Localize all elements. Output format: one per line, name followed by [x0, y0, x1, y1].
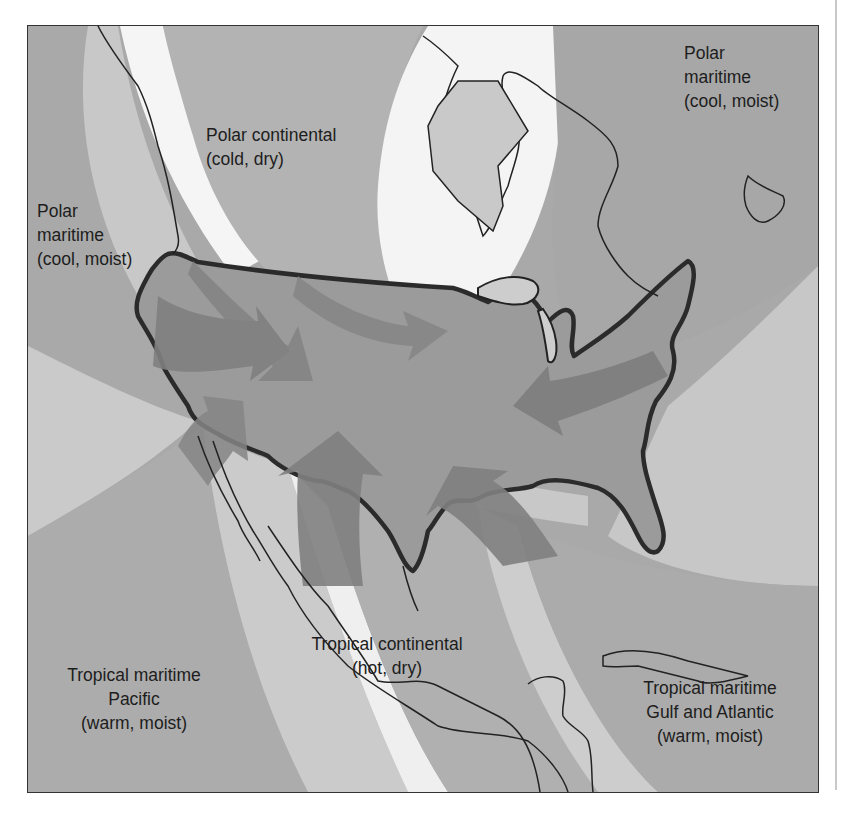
air-mass-map: Polar maritime (cool, moist) Polar conti…	[27, 25, 819, 793]
label-tropical-maritime-gulf-atlantic: Tropical maritime Gulf and Atlantic (war…	[615, 676, 805, 748]
label-tropical-continental: Tropical continental (hot, dry)	[297, 632, 477, 680]
label-tropical-maritime-pacific: Tropical maritime Pacific (warm, moist)	[39, 663, 229, 735]
label-polar-maritime-pacific: Polar maritime (cool, moist)	[37, 199, 132, 271]
label-polar-continental: Polar continental (cold, dry)	[206, 123, 336, 171]
page-margin-rule	[835, 0, 837, 790]
label-polar-maritime-atlantic: Polar maritime (cool, moist)	[684, 41, 779, 113]
